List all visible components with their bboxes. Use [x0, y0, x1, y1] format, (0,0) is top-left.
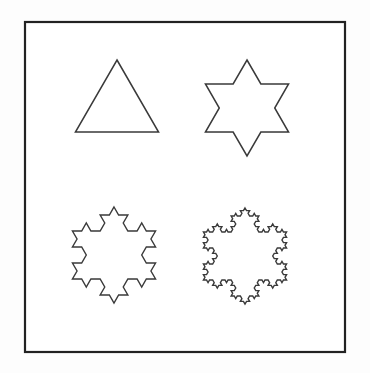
koch-snowflake-figure: [0, 0, 370, 373]
figure-root: [0, 0, 370, 373]
outer-border: [25, 22, 345, 352]
figure-canvas: [0, 0, 370, 373]
